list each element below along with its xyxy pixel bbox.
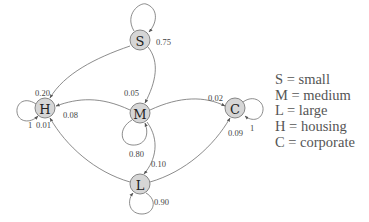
prob-s-s: 0.75 <box>156 37 171 47</box>
prob-s-m: 0.05 <box>124 88 139 98</box>
edge-m-m <box>122 120 147 145</box>
legend-item-c: C = corporate <box>275 134 355 150</box>
node-m-label: M <box>133 107 146 122</box>
edge-m-h <box>56 100 130 110</box>
node-m: M <box>130 103 150 123</box>
legend-item-s: S = small <box>275 71 330 87</box>
node-c: C <box>225 98 245 118</box>
edge-l-h <box>50 118 130 182</box>
prob-m-m: 0.80 <box>129 149 144 159</box>
node-c-label: C <box>230 102 240 117</box>
node-s-label: S <box>136 34 145 49</box>
edge-l-c <box>150 118 230 182</box>
edge-c-c <box>243 99 263 120</box>
edge-s-h <box>50 46 130 98</box>
markov-chain-diagram: S M H C L 0.75 0.20 0.05 0.08 0.02 0.80 … <box>0 0 369 222</box>
node-h-label: H <box>39 102 50 117</box>
edge-l-l <box>130 193 154 214</box>
prob-m-h: 0.08 <box>63 110 78 120</box>
prob-m-c: 0.02 <box>208 93 223 103</box>
node-l: L <box>130 174 150 194</box>
node-s: S <box>130 30 150 50</box>
prob-l-h: 0.01 <box>36 120 51 130</box>
legend-item-l: L = large <box>275 102 327 118</box>
node-l-label: L <box>136 178 145 193</box>
edge-h-h <box>17 101 38 121</box>
edge-s-s <box>131 4 156 32</box>
legend-item-h: H = housing <box>275 118 347 134</box>
legend-item-m: M = medium <box>275 87 352 103</box>
edge-s-m <box>145 47 155 103</box>
node-h: H <box>35 98 55 118</box>
legend: S = small M = medium L = large H = housi… <box>275 71 355 150</box>
prob-l-c: 0.09 <box>228 128 243 138</box>
prob-m-l: 0.10 <box>151 159 166 169</box>
prob-h-h: 1 <box>28 120 32 130</box>
prob-s-h: 0.20 <box>35 88 50 98</box>
prob-l-l: 0.90 <box>154 197 169 207</box>
prob-c-c: 1 <box>250 123 254 133</box>
